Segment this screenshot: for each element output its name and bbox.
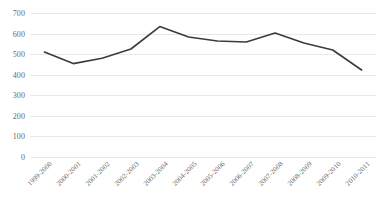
line-chart: 7006005004003002001000 1999-20002000-200… xyxy=(0,0,383,207)
y-axis-tick-label: 0 xyxy=(21,153,25,162)
x-axis-tick-label: 2005-2006 xyxy=(199,160,227,188)
gridline xyxy=(30,157,376,158)
series-layer xyxy=(30,13,376,157)
y-axis-tick-label: 700 xyxy=(13,9,25,18)
x-axis-tick-label: 2006-2007 xyxy=(228,160,256,188)
x-axis-tick-label: 2004-2005 xyxy=(170,160,198,188)
x-axis-tick-label: 2009-2010 xyxy=(315,160,343,188)
x-axis-tick-label: 2000-2001 xyxy=(55,160,83,188)
y-axis-tick-label: 300 xyxy=(13,91,25,100)
x-axis-tick-label: 2001-2002 xyxy=(84,160,112,188)
y-axis-tick-label: 200 xyxy=(13,111,25,120)
x-axis-tick-label: 2003-2004 xyxy=(142,160,170,188)
x-axis: 1999-20002000-20012001-20022002-20032003… xyxy=(30,160,376,207)
y-axis-tick-label: 100 xyxy=(13,132,25,141)
y-axis-tick-label: 500 xyxy=(13,50,25,59)
x-axis-tick-label: 1999-2000 xyxy=(26,160,54,188)
series-line-1 xyxy=(44,27,361,70)
x-axis-tick-label: 2007-2008 xyxy=(257,160,285,188)
x-axis-tick-label: 2008-2009 xyxy=(286,160,314,188)
y-axis-tick-label: 600 xyxy=(13,29,25,38)
x-axis-tick-label: 2002-2003 xyxy=(113,160,141,188)
x-axis-tick-label: 2010-2011 xyxy=(344,160,372,188)
y-axis-tick-label: 400 xyxy=(13,70,25,79)
plot-area xyxy=(30,13,376,157)
y-axis: 7006005004003002001000 xyxy=(0,0,30,207)
